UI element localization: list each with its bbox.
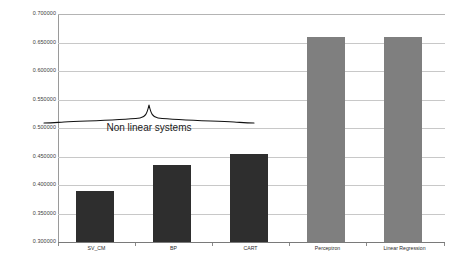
bar-perceptron: [307, 37, 345, 242]
bar-chart: 0.700000 0.650000 0.600000 0.550000 0.50…: [0, 0, 452, 268]
y-tick-label: 0.450000: [2, 154, 56, 159]
x-tick-label-cart: CART: [243, 246, 257, 251]
x-tick-label-bp: BP: [170, 246, 177, 251]
y-tick-label: 0.600000: [2, 68, 56, 73]
gridline-0-300000: [58, 242, 445, 243]
y-tick-label: 0.650000: [2, 40, 56, 45]
y-tick-label: 0.700000: [2, 11, 56, 16]
bar-bp: [153, 165, 191, 242]
x-tick-label-linear-regression: Linear Regression: [383, 246, 425, 251]
x-tick-label-sv-cm: SV_CM: [88, 246, 106, 251]
y-tick-label: 0.350000: [2, 211, 56, 216]
bar-linear-regression: [384, 37, 422, 242]
curly-brace-icon: [42, 102, 256, 124]
annotation-non-linear-systems: Non linear systems: [42, 102, 256, 142]
x-axis-tick-labels: SV_CM BP CART Perceptron Linear Regressi…: [58, 246, 445, 262]
gridline-0-700000: [58, 14, 445, 15]
bar-sv-cm: [76, 191, 114, 242]
x-tick-label-perceptron: Perceptron: [315, 246, 340, 251]
y-tick-label: 0.300000: [2, 239, 56, 244]
annotation-label: Non linear systems: [42, 122, 256, 133]
bar-cart: [230, 154, 268, 242]
y-tick-label: 0.400000: [2, 182, 56, 187]
